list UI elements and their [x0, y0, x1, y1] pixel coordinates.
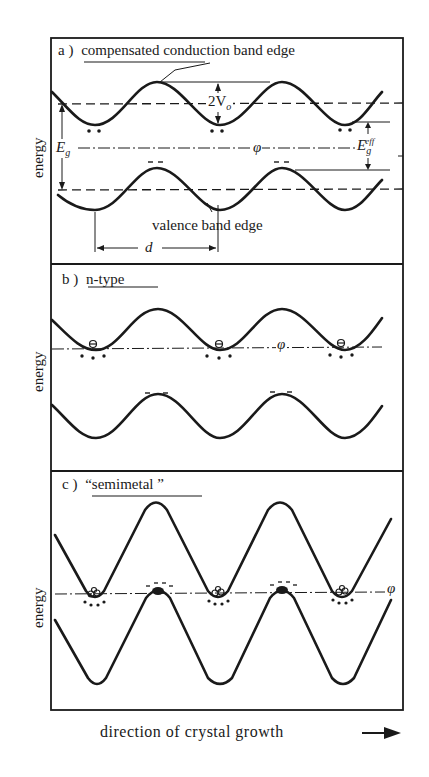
panel-a-label: a ) [58, 42, 73, 58]
eg-label: Eg [56, 139, 70, 158]
two-v0-label: 2Vo [206, 93, 233, 112]
fermi-level-label: φ [252, 139, 262, 156]
eg-eff-label: Egeff [357, 136, 380, 156]
panel-b-label: b ) [62, 271, 78, 287]
panel-a-title: a ) compensated conduction band edge [58, 42, 295, 59]
electron-dots [83, 598, 353, 606]
panel-c-title: c ) “semimetal ” [62, 476, 164, 493]
panel-c-y-label: energy [30, 587, 47, 628]
panel-a-title-text: compensated conduction band edge [81, 42, 295, 58]
mean-valence-dashed [58, 189, 403, 190]
panel-c [55, 496, 391, 684]
panel-b-title: b ) n-type [62, 271, 124, 288]
fermi-level-label: φ [387, 580, 395, 597]
conduction-band-curve [55, 503, 391, 598]
panel-b-title-text: n-type [86, 271, 124, 287]
d-label: d [145, 239, 153, 256]
leader-line [160, 63, 210, 82]
valence-band-curve [52, 394, 382, 438]
electron-clusters [88, 586, 348, 598]
electron-dots [87, 128, 352, 133]
x-axis-caption: direction of crystal growth [100, 723, 284, 741]
ionized-donors [90, 340, 345, 348]
band-diagram-figure [0, 0, 429, 777]
hole-dashes [146, 582, 297, 586]
valence-band-edge-label: valence band edge [152, 217, 263, 234]
fermi-level-label: φ [276, 336, 286, 353]
arrow-head-icon [384, 727, 401, 739]
figure-frame [51, 38, 403, 710]
panel-b [52, 287, 382, 438]
hole-dashes [145, 392, 292, 393]
panel-b-y-label: energy [30, 351, 47, 392]
electron-dots [80, 353, 353, 359]
panel-a-y-label: energy [30, 137, 47, 178]
panel-c-title-text: “semimetal ” [85, 476, 164, 492]
panel-c-label: c ) [62, 476, 77, 492]
